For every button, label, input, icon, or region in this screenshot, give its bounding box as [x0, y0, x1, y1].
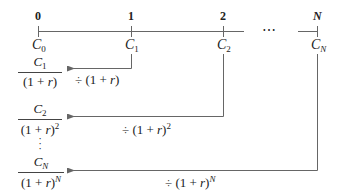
cashflow-c0: C0 [32, 38, 46, 54]
timeline-ellipsis: ⋯ [262, 24, 278, 38]
period-label-n: N [313, 10, 322, 22]
discount-arrow-1 [74, 54, 132, 69]
discount-label-n: ÷ (1 + r)N [165, 175, 215, 189]
cashflow-c1: C1 [125, 38, 139, 54]
cashflow-cn: CN [311, 38, 326, 54]
vertical-ellipsis: ··· [36, 136, 44, 151]
pv-fraction-1: C1 (1 + r) [18, 54, 62, 90]
discount-label-1: ÷ (1 + r) [75, 73, 119, 86]
discount-label-2: ÷ (1 + r)2 [122, 122, 171, 136]
pv-fraction-n: CN (1 + r)N [18, 154, 64, 191]
period-label-2: 2 [220, 10, 226, 22]
cashflow-c2: C2 [217, 38, 231, 54]
period-label-0: 0 [35, 10, 41, 22]
period-label-1: 1 [128, 10, 134, 22]
